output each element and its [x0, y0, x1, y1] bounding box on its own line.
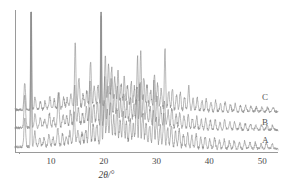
x-tick-label-50: 50 [258, 157, 267, 166]
trace-label-b: B [262, 118, 268, 127]
x-tick-label-20: 20 [99, 157, 108, 166]
x-tick-label-30: 30 [152, 157, 161, 166]
xrd-figure: 1020304050 2θ/° ABC [0, 0, 285, 188]
diffraction-trace-c [15, 12, 278, 113]
x-tick-label-10: 10 [46, 157, 55, 166]
x-tick-label-40: 40 [205, 157, 214, 166]
trace-label-a: A [262, 136, 269, 145]
trace-label-c: C [262, 93, 268, 102]
diffraction-traces-group [15, 12, 278, 150]
xrd-plot-svg [0, 0, 285, 188]
diffraction-trace-b [15, 12, 278, 131]
x-axis-title: 2θ/° [98, 171, 114, 181]
